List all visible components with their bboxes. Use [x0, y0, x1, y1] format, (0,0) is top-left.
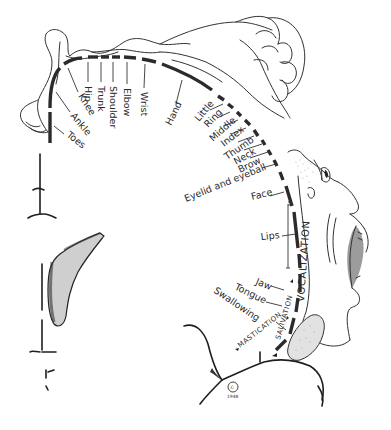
label-lips: Lips	[260, 229, 280, 242]
basal-ganglia-shape	[42, 233, 104, 326]
label-wrist: Wrist	[139, 92, 150, 116]
label-shoulder: Shoulder	[108, 86, 119, 128]
label-hand: Hand	[163, 100, 184, 127]
label-hip: Hip	[83, 86, 94, 102]
signature-mark: C	[231, 385, 234, 390]
signature-year: 1948	[227, 394, 239, 399]
labels: Toes Ankle Knee Hip Trunk Shoulder Elbow…	[64, 85, 312, 350]
label-face: Face	[250, 186, 274, 202]
label-elbow: Elbow	[122, 88, 133, 116]
artist-signature: C 1948	[227, 382, 239, 399]
label-trunk: Trunk	[96, 85, 107, 112]
homunculus-diagram: Toes Ankle Knee Hip Trunk Shoulder Elbow…	[0, 0, 391, 430]
body-figure-outline	[20, 16, 304, 132]
